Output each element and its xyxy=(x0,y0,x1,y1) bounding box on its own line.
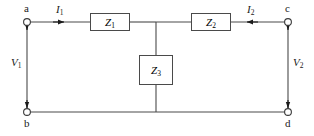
impedance-box-z1[interactable]: Z1 xyxy=(90,13,130,31)
terminal-label-b: b xyxy=(24,118,30,129)
terminal-node-c[interactable] xyxy=(285,19,292,26)
terminal-node-a[interactable] xyxy=(24,19,31,26)
impedance-label-z1: Z1 xyxy=(105,16,115,28)
impedance-label-z2: Z2 xyxy=(206,16,216,28)
impedance-label-z3: Z3 xyxy=(151,64,161,76)
voltage-label-v2: V2 xyxy=(293,57,303,68)
current-label-i2: I2 xyxy=(247,4,254,15)
terminal-label-d: d xyxy=(285,118,291,129)
voltage-label-v1: V1 xyxy=(11,57,21,68)
terminal-node-b[interactable] xyxy=(24,109,31,116)
impedance-box-z3[interactable]: Z3 xyxy=(139,55,173,85)
terminal-label-a: a xyxy=(24,3,29,14)
impedance-box-z2[interactable]: Z2 xyxy=(191,13,231,31)
circuit-diagram: Z1 Z2 Z3 a b c d I1 I2 V1 V2 xyxy=(0,0,314,136)
terminal-node-d[interactable] xyxy=(285,109,292,116)
terminal-label-c: c xyxy=(285,3,290,14)
current-label-i1: I1 xyxy=(56,4,63,15)
